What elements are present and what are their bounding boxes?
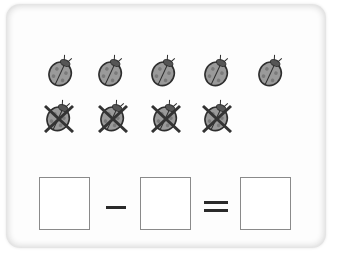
ladybug-icon [202,54,232,88]
equals-sign-bottom [204,209,228,212]
minus-sign [106,206,126,209]
crossed-out-ladybug-icon [151,99,181,133]
crossed-out-ladybug-icon [44,99,74,133]
answer-box-subtrahend[interactable] [140,177,191,230]
ladybug-icon [96,54,126,88]
ladybug-icon [149,54,179,88]
answer-box-minuend[interactable] [39,177,90,230]
answer-box-difference[interactable] [240,177,291,230]
crossed-out-ladybug-icon [202,99,232,133]
ladybug-icon [46,54,76,88]
equals-sign-top [204,201,228,204]
ladybug-icon [256,54,286,88]
crossed-out-ladybug-icon [98,99,128,133]
